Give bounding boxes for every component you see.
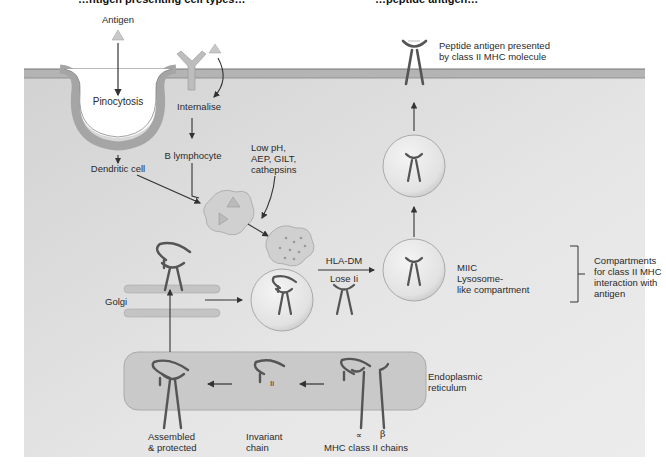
label-low-ph: Low pH, AEP, GILT, cathepsins [251,142,296,175]
antigen-icon [112,30,124,40]
label-dendritic-cell: Dendritic cell [91,163,145,174]
label-pinocytosis: Pinocytosis [93,96,144,107]
antigen-presentation-diagram [0,0,666,474]
label-b-lymphocyte: B lymphocyte [164,150,221,161]
label-peptide-presented: Peptide antigen presented by class II MH… [439,40,550,62]
miic-vesicle-upper [383,135,445,197]
label-miic: MIIC Lysosome- like compartment [457,262,529,295]
label-er: Endoplasmic reticulum [428,371,482,393]
label-alpha: ∝ [356,430,362,441]
label-golgi: Golgi [105,296,127,307]
label-beta: β [380,428,386,439]
label-ii: Ii [270,378,274,389]
label-antigen: Antigen [102,14,134,25]
label-lose-ii: Lose Ii [330,273,358,284]
label-invariant: Invariant chain [246,431,282,453]
label-internalise: Internalise [177,101,221,112]
label-mhc-chains: MHC class II chains [324,442,408,453]
miic-vesicle-lower [383,239,445,301]
label-assembled: Assembled & protected [148,431,197,453]
label-hla-dm: HLA-DM [326,255,362,266]
label-compartments: Compartments for class II MHC interactio… [594,255,662,299]
